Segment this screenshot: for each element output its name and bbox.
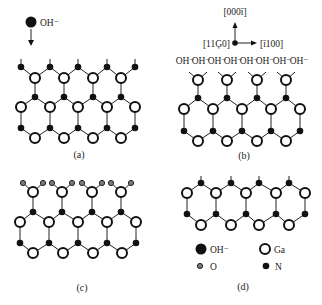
- lattice-d: [182, 176, 310, 230]
- ga-atoms-row2: [179, 104, 305, 114]
- n-atoms-row2: [17, 240, 140, 247]
- legend-item-o: O: [197, 262, 217, 272]
- panel-label-c: (c): [76, 282, 87, 294]
- n-atoms-top: [198, 180, 293, 187]
- legend-label-oh: OH⁻: [210, 245, 229, 255]
- ga-atoms-row1: [30, 73, 126, 83]
- gan-etching-diagram: OH⁻: [0, 0, 322, 305]
- n-atoms-row1: [30, 209, 125, 216]
- axis-label-origin: [11Ģ0]: [203, 39, 230, 49]
- panel-label-b: (b): [238, 150, 250, 162]
- lattice-b: [179, 72, 305, 146]
- ga-atoms-row1: [182, 188, 310, 198]
- n-atom-icon: [263, 263, 270, 270]
- surface-oh-labels: OH⁻ OH⁻ OH⁻ OH⁻ OH⁻ OH⁻ OH⁻ OH⁻: [176, 56, 309, 66]
- axis-origin-dot: [232, 40, 238, 46]
- svg-text:OH⁻: OH⁻: [273, 56, 292, 66]
- ga-atoms-row2: [15, 217, 141, 227]
- lattice-a: [16, 59, 140, 143]
- panel-label-d: (d): [237, 281, 249, 293]
- ga-atoms-row3: [30, 133, 126, 143]
- ga-atoms-top: [193, 75, 291, 85]
- up-arrow-icon: [233, 22, 238, 28]
- legend-item-oh: OH⁻: [196, 244, 229, 256]
- legend-label-o: O: [210, 262, 217, 272]
- legend-label-ga: Ga: [274, 245, 286, 255]
- ga-atoms-row2: [196, 220, 294, 230]
- legend-item-ga: Ga: [260, 244, 286, 255]
- ga-atoms-row3: [193, 136, 291, 146]
- svg-text:OH⁻: OH⁻: [290, 56, 309, 66]
- oh-ion-icon: [196, 244, 207, 255]
- panel-b: [000ī] [11Ģ0] [ī100] OH⁻ OH⁻ OH⁻ OH⁻ OH⁻…: [176, 7, 309, 162]
- legend-label-n: N: [275, 262, 282, 272]
- axis-label-right: [ī100]: [260, 39, 283, 49]
- down-arrow-icon: [28, 40, 34, 46]
- lattice-c: [15, 180, 141, 258]
- ga-atom-icon: [260, 244, 270, 254]
- n-atoms-row2: [184, 211, 309, 218]
- ga-atoms-row2: [16, 102, 140, 112]
- n-atoms-row1: [18, 64, 139, 71]
- n-atoms-row2: [32, 94, 125, 101]
- panel-label-a: (a): [73, 149, 84, 161]
- svg-text:OH⁻: OH⁻: [256, 56, 275, 66]
- n-atoms-row2: [181, 128, 304, 135]
- panel-c: (c): [15, 180, 141, 294]
- o-atom-icon: [197, 263, 202, 268]
- oh-ion-label: OH⁻: [40, 18, 59, 28]
- legend: OH⁻ Ga O N: [196, 244, 286, 272]
- ga-atoms-top: [28, 187, 126, 197]
- ga-atoms-row3: [28, 248, 127, 258]
- n-atoms-row3: [18, 125, 139, 132]
- legend-item-n: N: [263, 262, 282, 272]
- panel-d: OH⁻ Ga O N (d): [182, 176, 310, 293]
- panel-a: OH⁻: [16, 17, 140, 162]
- axis-label-up: [000ī]: [223, 7, 246, 17]
- oh-ion-icon: [26, 17, 37, 28]
- incoming-oh-ion: OH⁻: [26, 17, 59, 47]
- o-atoms: [20, 180, 133, 185]
- crystal-axes: [000ī] [11Ģ0] [ī100]: [203, 7, 283, 49]
- n-atoms-row1: [195, 95, 290, 102]
- right-arrow-icon: [251, 41, 257, 46]
